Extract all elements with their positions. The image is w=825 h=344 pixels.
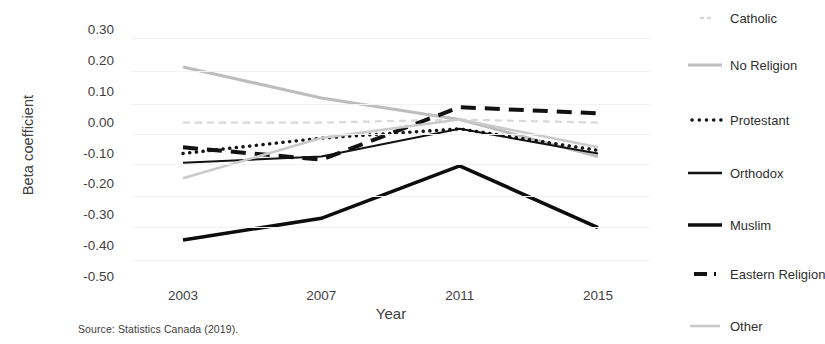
scan-artifact-line [131, 196, 651, 197]
y-axis-tick-label: -0.40 [52, 239, 114, 253]
x-axis-tick-label: 2003 [148, 288, 218, 303]
scan-artifact-line [131, 104, 651, 105]
scan-artifact-line [131, 260, 651, 261]
thick-dashed-black-line-icon [688, 267, 726, 281]
thick-solid-black-line-icon [688, 218, 726, 232]
x-axis-tick-label: 2011 [425, 288, 495, 303]
source-note: Source: Statistics Canada (2019). [78, 323, 238, 335]
solid-gray-line-icon [688, 58, 726, 72]
legend-label: Eastern Religion [730, 268, 825, 281]
legend-label: Muslim [730, 219, 771, 232]
y-axis-tick-label: -0.30 [52, 208, 114, 222]
solid-lightgray-line-icon [688, 319, 726, 333]
legend-item-other[interactable]: Other [688, 318, 763, 334]
scan-artifact-line [131, 134, 651, 135]
series-line-protestant [183, 129, 598, 154]
legend-label: No Religion [730, 59, 797, 72]
legend-item-orthodox[interactable]: Orthodox [688, 165, 783, 181]
series-line-other [183, 120, 598, 179]
y-axis-tick-label: -0.20 [52, 177, 114, 191]
plot-area [131, 14, 651, 286]
legend-label: Orthodox [730, 167, 783, 180]
y-axis-tick-label: 0.10 [52, 85, 114, 99]
series-line-catholic [183, 120, 598, 123]
y-axis-tick-label: 0.30 [52, 23, 114, 37]
legend-label: Other [730, 320, 763, 333]
thin-solid-black-line-icon [688, 166, 726, 180]
y-axis-tick-label: 0.20 [52, 54, 114, 68]
dotted-black-line-icon [688, 113, 726, 127]
y-axis-tick-label: -0.10 [52, 147, 114, 161]
y-axis-title: Beta coefficient [20, 45, 36, 245]
y-axis-tick-labels: 0.300.200.100.00-0.10-0.20-0.30-0.40-0.5… [52, 0, 114, 300]
scan-artifact-line [131, 227, 651, 228]
legend: CatholicNo ReligionProtestantOrthodoxMus… [688, 0, 822, 344]
short-dash-lightgray-line-icon [688, 11, 726, 25]
legend-item-no-religion[interactable]: No Religion [688, 57, 797, 73]
x-axis-title: Year [331, 305, 451, 322]
y-axis-tick-label: -0.50 [52, 270, 114, 284]
x-axis-tick-label: 2015 [563, 288, 633, 303]
legend-item-muslim[interactable]: Muslim [688, 217, 771, 233]
scan-artifact-line [131, 71, 651, 72]
legend-label: Protestant [730, 114, 789, 127]
legend-item-catholic[interactable]: Catholic [688, 10, 777, 26]
y-axis-tick-label: 0.00 [52, 116, 114, 130]
series-lines-svg [131, 14, 651, 286]
legend-item-protestant[interactable]: Protestant [688, 112, 789, 128]
x-axis-tick-label: 2007 [286, 288, 356, 303]
legend-label: Catholic [730, 12, 777, 25]
series-line-muslim [183, 166, 598, 240]
scan-artifact-line [131, 164, 651, 165]
legend-item-eastern-religion[interactable]: Eastern Religion [688, 266, 825, 282]
scan-artifact-line [131, 38, 651, 39]
